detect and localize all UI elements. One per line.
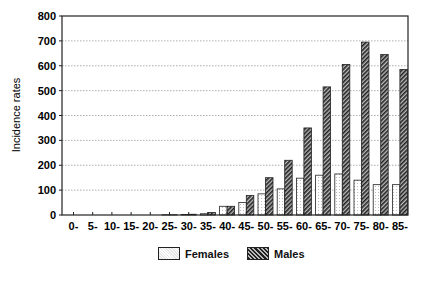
bar-females bbox=[296, 178, 304, 215]
y-tick-label: 400 bbox=[38, 110, 56, 122]
y-tick-label: 700 bbox=[38, 35, 56, 47]
y-tick-label: 300 bbox=[38, 134, 56, 146]
x-tick-label: 40- bbox=[219, 220, 235, 232]
bar-males bbox=[227, 206, 235, 215]
bar-males bbox=[266, 178, 274, 215]
x-tick-label: 55- bbox=[277, 220, 293, 232]
x-tick-label: 70- bbox=[334, 220, 350, 232]
bar-males bbox=[285, 160, 293, 215]
bar-chart: 0100200300400500600700800 0-5-10-15-20-2… bbox=[0, 0, 423, 283]
y-tick-label: 800 bbox=[38, 10, 56, 22]
bar-females bbox=[239, 203, 247, 215]
y-tick-label: 100 bbox=[38, 184, 56, 196]
y-tick-label: 0 bbox=[50, 209, 56, 221]
bar-females bbox=[316, 175, 324, 215]
x-tick-label: 50- bbox=[258, 220, 274, 232]
bar-males bbox=[246, 196, 254, 215]
legend-label-females: Females bbox=[185, 248, 229, 260]
bars bbox=[162, 42, 407, 215]
legend: Females Males bbox=[158, 247, 323, 260]
y-tick-label: 600 bbox=[38, 60, 56, 72]
legend-item-females: Females bbox=[158, 247, 229, 260]
x-tick-label: 20- bbox=[142, 220, 158, 232]
bar-females bbox=[277, 189, 285, 215]
females-swatch-icon bbox=[158, 247, 180, 260]
bar-females bbox=[335, 174, 343, 215]
x-tick-label: 10- bbox=[104, 220, 120, 232]
x-tick-label: 15- bbox=[123, 220, 139, 232]
bar-males bbox=[342, 65, 350, 215]
y-tick-label: 200 bbox=[38, 159, 56, 171]
x-tick-label: 45- bbox=[238, 220, 254, 232]
bar-females bbox=[220, 206, 228, 215]
bar-males bbox=[323, 87, 331, 215]
x-tick-label: 0- bbox=[69, 220, 79, 232]
x-tick-label: 60- bbox=[296, 220, 312, 232]
gridlines bbox=[62, 41, 408, 190]
bar-females bbox=[392, 185, 400, 215]
bar-males bbox=[381, 55, 389, 215]
y-tick-label: 500 bbox=[38, 85, 56, 97]
legend-label-males: Males bbox=[274, 248, 305, 260]
bar-females bbox=[373, 185, 381, 215]
bar-males bbox=[400, 69, 408, 215]
x-tick-label: 85- bbox=[392, 220, 408, 232]
bar-males bbox=[304, 128, 312, 215]
x-tick-label: 75- bbox=[354, 220, 370, 232]
legend-item-males: Males bbox=[247, 247, 305, 260]
x-tick-label: 80- bbox=[373, 220, 389, 232]
x-tick-label: 35- bbox=[200, 220, 216, 232]
x-tick-label: 5- bbox=[88, 220, 98, 232]
y-axis-label: Incidence rates bbox=[10, 77, 22, 152]
x-tick-label: 65- bbox=[315, 220, 331, 232]
bar-females bbox=[258, 194, 266, 215]
males-swatch-icon bbox=[247, 247, 269, 260]
x-tick-label: 25- bbox=[162, 220, 178, 232]
x-tick-label: 30- bbox=[181, 220, 197, 232]
bar-males bbox=[362, 42, 370, 215]
y-axis-ticks: 0100200300400500600700800 bbox=[38, 10, 62, 221]
bar-females bbox=[354, 180, 362, 215]
